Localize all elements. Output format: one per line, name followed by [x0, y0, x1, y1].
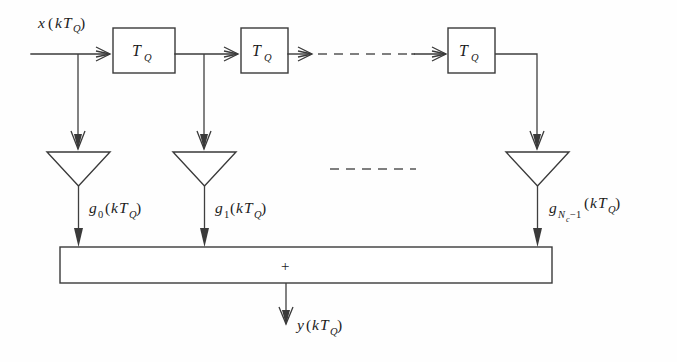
delay-block-2-rect — [241, 28, 288, 73]
block-diagram-svg: x ( k T Q ) T Q T — [0, 0, 677, 362]
input-label-close-paren: ) — [80, 14, 85, 32]
gain-triangle-1 — [173, 152, 236, 186]
adder-bar-rect — [60, 247, 552, 283]
delay-block-3: T Q — [448, 28, 495, 73]
gain-label-0-k: k — [111, 199, 119, 216]
input-signal-label: x ( k T Q ) — [37, 14, 85, 34]
gain-label-last-close-paren: ) — [615, 194, 620, 212]
output-label-T: T — [320, 316, 330, 333]
output-label-y: y — [295, 316, 304, 333]
gain-label-0-open-paren: ( — [105, 199, 110, 217]
gain-label-last-subscript-N: N — [557, 209, 566, 220]
gain-label-1-open-paren: ( — [230, 199, 235, 217]
gain-triangle-last — [506, 152, 569, 186]
gain-label-0-subscript: 0 — [98, 209, 103, 220]
delay-block-2-label-sub: Q — [264, 52, 272, 63]
adder-plus-symbol: + — [281, 258, 289, 274]
adder-bar: + — [60, 247, 552, 283]
output-label-close-paren: ) — [337, 316, 342, 334]
input-label-open-paren: ( — [48, 14, 53, 32]
gain-label-1: g 1 ( k T Q ) — [215, 199, 266, 220]
gain-label-last-T: T — [598, 194, 608, 211]
delay-block-1-label-sub: Q — [144, 52, 152, 63]
figure-canvas: x ( k T Q ) T Q T — [0, 0, 677, 362]
gain-label-0-T: T — [119, 199, 129, 216]
input-label-k: k — [55, 14, 63, 31]
gain-label-last-k: k — [590, 194, 598, 211]
gain-label-1-k: k — [236, 199, 244, 216]
output-label-k: k — [312, 316, 320, 333]
gain-label-last: g N c −1 ( k T Q ) — [549, 194, 620, 224]
gain-label-1-T: T — [244, 199, 254, 216]
gain-triangle-0 — [47, 152, 110, 186]
input-label-T: T — [63, 14, 73, 31]
delay-block-2: T Q — [241, 28, 288, 73]
delay-block-1-label-T: T — [132, 42, 142, 59]
gain-label-0-close-paren: ) — [136, 199, 141, 217]
delay-block-1-rect — [113, 28, 175, 73]
gain-label-1-subscript: 1 — [224, 209, 229, 220]
delay-block-3-rect — [448, 28, 495, 73]
delay-block-3-label-T: T — [459, 42, 469, 59]
input-label-x: x — [37, 14, 45, 31]
arrowhead-taplast-adder — [533, 228, 542, 247]
delay-block-3-label-sub: Q — [471, 52, 479, 63]
output-signal-label: y ( k T Q ) — [295, 316, 342, 337]
arrowhead-tap1-adder — [200, 228, 209, 247]
gain-label-1-close-paren: ) — [261, 199, 266, 217]
gain-label-0: g 0 ( k T Q ) — [89, 199, 141, 220]
output-label-open-paren: ( — [306, 316, 311, 334]
gain-label-last-symbol: g — [549, 199, 557, 216]
arrowhead-tap0-adder — [74, 228, 83, 247]
delay-block-1: T Q — [113, 28, 175, 73]
gain-label-last-open-paren: ( — [584, 194, 589, 212]
delay-block-2-label-T: T — [252, 42, 262, 59]
gain-label-1-symbol: g — [215, 199, 223, 216]
gain-label-last-subscript-minus-one: −1 — [570, 209, 581, 220]
gain-label-0-symbol: g — [89, 199, 97, 216]
